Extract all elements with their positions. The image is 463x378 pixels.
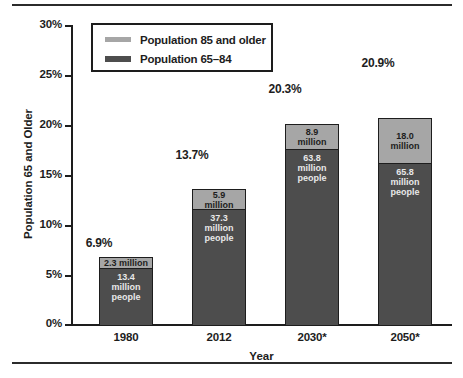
bar-total-label-2050: 20.9%	[338, 56, 418, 70]
x-tick-label-1980: 1980	[86, 331, 166, 343]
bar-total-label-1980: 6.9%	[59, 236, 139, 250]
x-axis-title: Year	[71, 350, 452, 362]
x-tick-label-2030: 2030*	[272, 331, 352, 343]
bar-segment-65-84-2012[interactable]: 37.3 million people	[193, 210, 245, 325]
bar-segment-65-84-label-2012: 37.3 million people	[204, 213, 233, 325]
chart-legend: Population 85 and older Population 65–84	[91, 23, 273, 72]
bar-segment-85-plus-label-2030: 8.9 million	[298, 127, 327, 147]
x-tick-label-2050: 2050*	[365, 331, 445, 343]
bar-segment-65-84-label-1980: 13.4 million people	[111, 272, 140, 325]
bar-segment-85-plus-2030[interactable]: 8.9 million	[286, 125, 338, 150]
y-tick-mark-0	[65, 324, 71, 326]
legend-item-85-plus[interactable]: Population 85 and older	[105, 30, 271, 49]
y-tick-mark-20	[65, 125, 71, 127]
bar-segment-65-84-1980[interactable]: 13.4 million people	[100, 269, 152, 325]
bar-2012[interactable]: 5.9 million 37.3 million people	[192, 189, 246, 326]
bar-segment-85-plus-2012[interactable]: 5.9 million	[193, 190, 245, 210]
legend-swatch-icon-65-84	[105, 56, 131, 62]
y-tick-label-30-wrap: 30%	[18, 18, 62, 32]
legend-item-65-84[interactable]: Population 65–84	[105, 49, 271, 68]
legend-swatch-icon-85-plus	[105, 37, 131, 42]
y-tick-label-0-wrap: 0%	[18, 317, 62, 331]
y-tick-mark-5	[65, 275, 71, 277]
y-axis-line	[71, 25, 73, 325]
legend-label-65-84: Population 65–84	[140, 53, 231, 65]
bar-segment-65-84-label-2050: 65.8 million people	[390, 167, 419, 325]
bar-segment-85-plus-label-1980: 2.3 million	[104, 258, 148, 268]
y-axis-title: Population 65 and Older	[22, 69, 34, 279]
y-tick-mark-10	[65, 225, 71, 227]
y-tick-label-30: 30%	[26, 18, 62, 30]
bar-segment-65-84-label-2030: 63.8 million people	[297, 153, 326, 325]
bar-segment-85-plus-label-2050: 18.0 million	[391, 131, 420, 151]
x-tick-label-2012: 2012	[179, 331, 259, 343]
y-tick-label-0: 0%	[26, 317, 62, 329]
bar-segment-85-plus-1980[interactable]: 2.3 million	[100, 258, 152, 269]
legend-label-85-plus: Population 85 and older	[140, 34, 266, 46]
bar-1980[interactable]: 2.3 million 13.4 million people	[99, 257, 153, 326]
bar-segment-65-84-2050[interactable]: 65.8 million people	[379, 164, 431, 325]
bar-total-label-2012: 13.7%	[152, 148, 232, 162]
bar-total-label-2030: 20.3%	[245, 82, 325, 96]
y-tick-mark-25	[65, 75, 71, 77]
bar-segment-85-plus-2050[interactable]: 18.0 million	[379, 119, 431, 164]
plot-area: 30% 25% 20% 15% 10% 5% 0% Population 65 …	[0, 0, 463, 378]
y-tick-mark-15	[65, 175, 71, 177]
bar-2050[interactable]: 18.0 million 65.8 million people	[378, 118, 432, 326]
bar-segment-85-plus-label-2012: 5.9 million	[205, 190, 234, 210]
bar-segment-65-84-2030[interactable]: 63.8 million people	[286, 150, 338, 325]
y-tick-mark-30	[65, 25, 71, 27]
bar-2030[interactable]: 8.9 million 63.8 million people	[285, 124, 339, 326]
chart-figure: 30% 25% 20% 15% 10% 5% 0% Population 65 …	[0, 0, 463, 378]
